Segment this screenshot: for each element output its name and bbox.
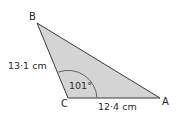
angle-label-c: 101° xyxy=(69,80,92,91)
triangle-abc xyxy=(37,23,160,98)
vertex-label-c: C xyxy=(61,98,68,109)
side-label-bc: 13·1 cm xyxy=(8,60,47,71)
vertex-label-b: B xyxy=(29,11,36,22)
side-label-ca: 12·4 cm xyxy=(98,101,137,112)
triangle-diagram: B C A 13·1 cm 12·4 cm 101° xyxy=(0,0,184,122)
vertex-label-a: A xyxy=(162,96,169,107)
